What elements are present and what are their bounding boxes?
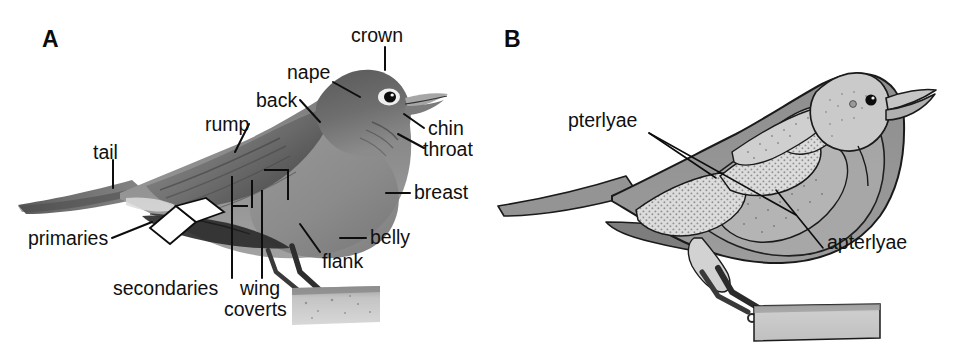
label-back: back [256,90,297,111]
label-primaries: primaries [28,228,108,249]
label-throat: throat [423,139,473,160]
label-rump: rump [205,114,249,135]
label-tail: tail [93,142,118,163]
label-crown: crown [351,25,403,46]
label-pterlyae: pterlyae [568,110,637,131]
panel-b-bird-schematic [486,0,972,346]
label-coverts: coverts [224,299,287,320]
label-apterlyae: apterlyae [827,232,907,253]
label-chin: chin [428,118,464,139]
label-wing: wing [240,278,280,299]
label-nape: nape [287,62,330,83]
panel-a: A [0,0,486,346]
label-belly: belly [370,227,410,248]
panel-b: B [486,0,972,346]
figure-root: A [0,0,972,346]
label-flank: flank [322,251,363,272]
label-secondaries: secondaries [113,278,218,299]
label-breast: breast [414,182,468,203]
